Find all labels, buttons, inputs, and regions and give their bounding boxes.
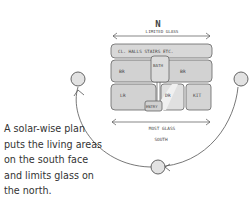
living-room-label: LR xyxy=(120,93,126,98)
service-strip-label: CL. HALLS STAIRS ETC. xyxy=(118,49,174,54)
kitchen-label: KIT xyxy=(193,93,202,98)
solar-plan-figure: N LIMITED GLASS CL. HALLS STAIRS ETC. BR… xyxy=(0,0,252,198)
figure-caption: A solar-wise plan puts the living areas … xyxy=(4,121,102,198)
north-glass-label: LIMITED GLASS xyxy=(146,29,179,34)
south-glass-label: MOST GLASS xyxy=(149,126,176,131)
north-marker: N xyxy=(155,19,160,29)
entry-label: ENTRY xyxy=(146,104,158,109)
south-label: SOUTH xyxy=(154,137,168,142)
bath-room xyxy=(151,56,169,82)
sun-west-icon xyxy=(234,72,248,86)
caption-line: puts the living areas xyxy=(4,137,102,153)
sun-south-icon xyxy=(151,160,165,174)
arc-arrow-icon xyxy=(74,90,84,96)
caption-line: A solar-wise plan xyxy=(4,121,102,137)
south-dimension-arrow xyxy=(112,119,210,125)
sun-east-icon xyxy=(71,72,85,86)
bedroom-left-label: BR xyxy=(119,69,125,74)
arc-arrow-icon xyxy=(165,164,170,171)
bedroom-right-label: BR xyxy=(180,69,186,74)
dining-room-label: DR xyxy=(165,93,171,98)
bath-label: BATH xyxy=(153,63,164,68)
caption-line: on the south face xyxy=(4,152,102,168)
caption-line: the north. xyxy=(4,183,102,198)
caption-line: and limits glass on xyxy=(4,168,102,184)
